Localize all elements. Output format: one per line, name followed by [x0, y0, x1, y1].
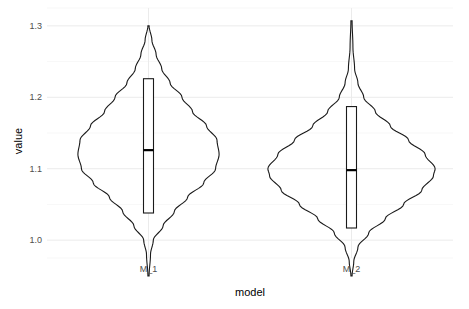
grid-lines	[47, 8, 453, 258]
y-tick-label: 1.1	[29, 164, 42, 174]
y-tick-label: 1.2	[29, 92, 42, 102]
x-tick-label: M_2	[343, 264, 361, 274]
x-tick-labels: M_1M_2	[140, 264, 361, 274]
y-tick-label: 1.0	[29, 235, 42, 245]
violins	[78, 21, 435, 276]
y-axis-title: value	[12, 128, 24, 154]
x-axis-title: model	[235, 286, 265, 298]
violin-chart: 1.01.11.21.3 M_1M_2 model value	[0, 0, 469, 309]
y-tick-label: 1.3	[29, 21, 42, 31]
box-M_1	[144, 79, 154, 213]
x-tick-label: M_1	[140, 264, 158, 274]
box-M_2	[347, 107, 357, 228]
y-tick-labels: 1.01.11.21.3	[29, 21, 42, 245]
